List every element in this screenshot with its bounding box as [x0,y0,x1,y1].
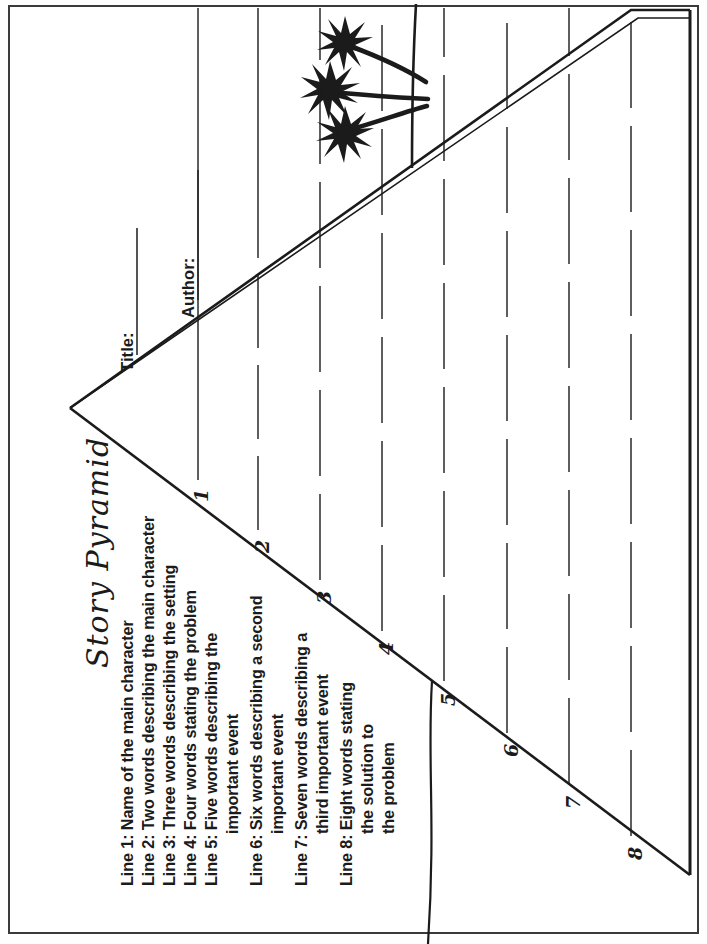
instruction-line-2: Line 2: Two words describing the main ch… [139,516,158,886]
instruction-line-8-cont-2: the problem [379,742,398,886]
pyramid-row-number-6: 6 [500,744,522,757]
pyramid-row-number-2: 2 [251,540,273,553]
instruction-line-6: Line 6: Six words describing a second [247,596,266,886]
worksheet-page: Story Pyramid Title: Author: Line 1: Nam… [0,0,707,944]
instruction-line-8-cont-1: the solution to [358,724,377,886]
instruction-line-7: Line 7: Seven words describing a [292,633,311,886]
pyramid-row-number-5: 5 [437,693,459,706]
instruction-line-4: Line 4: Four words stating the problem [181,590,200,886]
instruction-line-5: Line 5: Five words describing the [202,633,221,886]
instruction-line-8: Line 8: Eight words stating [337,682,356,886]
instruction-line-5-cont-1: important event [223,714,242,886]
field-label-author: Author: [179,258,198,318]
pyramid-row-number-7: 7 [562,796,584,809]
instruction-line-7-cont-1: third important event [313,674,332,886]
instruction-line-6-cont-1: important event [268,714,287,886]
pyramid-row-number-3: 3 [313,591,335,604]
pyramid-row-number-4: 4 [375,642,397,655]
pyramid-row-number-1: 1 [190,489,212,502]
page-title: Story Pyramid [80,437,115,668]
instruction-line-3: Line 3: Three words describing the setti… [160,565,179,886]
pyramid-row-number-8: 8 [624,847,646,860]
instruction-line-1: Line 1: Name of the main character [118,620,137,886]
field-label-title: Title: [118,332,137,372]
